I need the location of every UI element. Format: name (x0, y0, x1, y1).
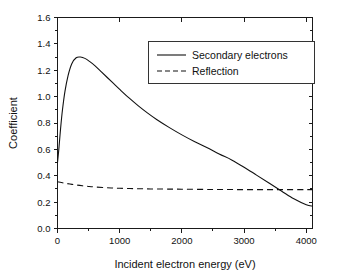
y-tick-label: 0.8 (37, 117, 50, 128)
y-tick-label: 0.4 (37, 170, 50, 181)
x-tick-label: 3000 (234, 235, 255, 246)
y-tick-label: 1.0 (37, 91, 50, 102)
y-tick-label: 0.2 (37, 197, 50, 208)
legend-label-secondary-electrons: Secondary electrons (192, 49, 288, 61)
chart-canvas: 0.00.20.40.60.81.01.21.41.6 010002000300… (0, 0, 338, 280)
y-tick-label: 1.2 (37, 65, 50, 76)
x-tick-label: 1000 (109, 235, 130, 246)
y-tick-label: 0.6 (37, 144, 50, 155)
y-tick-label: 0.0 (37, 223, 50, 234)
y-tick-label: 1.6 (37, 12, 50, 23)
x-tick-label: 4000 (296, 235, 317, 246)
x-tick-label: 2000 (171, 235, 192, 246)
y-tick-label: 1.4 (37, 38, 50, 49)
chart-figure: 0.00.20.40.60.81.01.21.41.6 010002000300… (0, 0, 338, 280)
chart-legend: Secondary electrons Reflection (149, 42, 315, 84)
legend-label-reflection: Reflection (192, 65, 239, 77)
x-tick-label: 0 (55, 235, 60, 246)
y-axis-title: Coefficient (7, 97, 19, 149)
y-axis-tick-labels: 0.00.20.40.60.81.01.21.41.6 (37, 12, 50, 234)
x-axis-title: Incident electron energy (eV) (114, 258, 255, 270)
